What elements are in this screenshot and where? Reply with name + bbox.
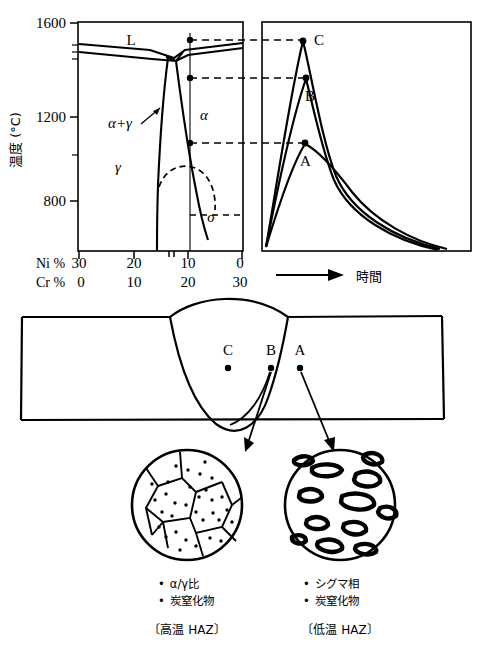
weld-point-label-A: A (295, 342, 306, 358)
cr-tick-10: 10 (127, 274, 142, 290)
caption-low-temperature-haz: •シグマ相 •炭窒化物 〔低温 HAZ〕 (301, 577, 378, 637)
phase-y-tick-1600: 1600 (36, 15, 66, 31)
haz-low-caption: 〔低温 HAZ〕 (301, 623, 378, 637)
thermal-peak-dot-B (303, 75, 310, 82)
phase-y-axis-label: 温度 (°C) (8, 112, 23, 168)
thermal-curve-label-A: A (300, 153, 311, 169)
micrograph-high-temperature-haz (132, 450, 242, 560)
phase-x-ticks (79, 251, 242, 259)
weld-point-label-B: B (266, 342, 276, 358)
tie-dot-A (187, 140, 193, 146)
thermal-curve-label-B: B (305, 88, 315, 104)
ni-tick-10: 10 (181, 255, 196, 271)
ni-tick-30: 30 (72, 255, 87, 271)
cr-tick-0: 0 (77, 274, 85, 290)
thermal-curve-C (266, 41, 440, 249)
weld-point-dot-B[interactable] (268, 365, 274, 371)
thermal-curve-label-C: C (314, 32, 324, 48)
thermal-cycle-frame (262, 22, 471, 251)
phase-y-ticks (70, 23, 78, 201)
tie-point-C (187, 37, 262, 43)
phase-label-gamma: γ (115, 159, 122, 175)
phase-y-minor-ticks (72, 45, 78, 155)
plate-edge-left (21, 317, 22, 420)
haz-low-bullet-2: •炭窒化物 (303, 594, 359, 608)
x-row-label-ni: Ni % (36, 256, 66, 271)
sigma-phase-dome (159, 166, 215, 210)
ni-tick-20: 20 (127, 255, 142, 271)
haz-low-bullet-1: •シグマ相 (303, 577, 359, 591)
cr-tick-30: 30 (233, 274, 248, 290)
plate-edge-right (442, 316, 444, 419)
tie-point-A (187, 140, 262, 146)
alpha-boundary-line (176, 61, 208, 240)
arrow-A-to-low-temp-haz-shaft (301, 372, 330, 443)
ni-tick-0: 0 (236, 255, 244, 271)
thermal-peak-dot-C (300, 38, 307, 45)
cr-tick-20: 20 (181, 274, 196, 290)
tie-dot-C (187, 37, 193, 43)
haz-high-caption: 〔高温 HAZ〕 (148, 622, 225, 637)
thermal-curve-B (266, 79, 438, 250)
haz-high-bullet-1: •α/γ比 (158, 577, 199, 591)
weld-point-dot-C[interactable] (225, 365, 231, 371)
haz-high-bullet-2: •炭窒化物 (158, 594, 214, 608)
tie-point-B (187, 75, 262, 81)
weld-point-dot-A[interactable] (297, 365, 303, 371)
tie-dot-B (187, 75, 193, 81)
caption-high-temperature-haz: •α/γ比 •炭窒化物 〔高温 HAZ〕 (148, 577, 225, 637)
plate-bottom (21, 419, 444, 420)
weld-crown (170, 299, 288, 317)
figure-root: 1600 1200 800 温度 (°C) (0, 0, 488, 662)
thermal-curve-A (266, 144, 447, 249)
gamma-boundary-line (157, 58, 168, 251)
phase-y-tick-1200: 1200 (36, 109, 66, 125)
phase-diagram: 1600 1200 800 温度 (°C) (8, 15, 262, 290)
phase-label-liquid: L (126, 32, 135, 48)
x-row-label-cr: Cr % (36, 275, 66, 290)
phase-label-sigma: σ (207, 209, 215, 225)
figure-canvas: 1600 1200 800 温度 (°C) (0, 0, 488, 662)
weld-cross-section: C B A (21, 299, 444, 452)
fusion-line-pointer-B (230, 372, 270, 425)
weld-point-label-C: C (223, 342, 233, 358)
phase-label-alpha-gamma: α+γ (108, 115, 133, 131)
time-axis-arrowhead (328, 269, 344, 281)
plate-top-right (288, 316, 442, 317)
phase-label-alpha: α (200, 107, 209, 123)
phase-y-tick-800: 800 (44, 193, 67, 209)
micrograph-low-temperature-haz (285, 450, 396, 560)
time-axis-label: 時間 (356, 269, 382, 284)
thermal-cycle-chart: C B A 時間 (262, 22, 471, 284)
thermal-peak-dot-A (302, 140, 309, 147)
alpha-gamma-arrowhead (153, 108, 160, 115)
